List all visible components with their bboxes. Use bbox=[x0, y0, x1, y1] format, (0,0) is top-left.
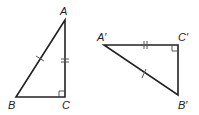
vertex-label-c: C bbox=[62, 99, 70, 111]
triangle-abc: A B C bbox=[8, 5, 70, 111]
vertex-label-a-prime: A′ bbox=[96, 31, 107, 43]
right-angle-marker-c-prime bbox=[172, 45, 178, 51]
vertex-label-b-prime: B′ bbox=[178, 99, 188, 111]
vertex-label-b: B bbox=[8, 99, 15, 111]
triangle-a-prime-outline bbox=[104, 45, 178, 95]
triangle-a-prime-b-prime-c-prime: A′ C′ B′ bbox=[96, 31, 189, 111]
right-angle-marker-c bbox=[59, 91, 65, 97]
vertex-label-a: A bbox=[59, 5, 67, 17]
vertex-label-c-prime: C′ bbox=[178, 31, 189, 43]
congruent-triangles-diagram: A B C A′ C′ B′ bbox=[0, 0, 199, 115]
